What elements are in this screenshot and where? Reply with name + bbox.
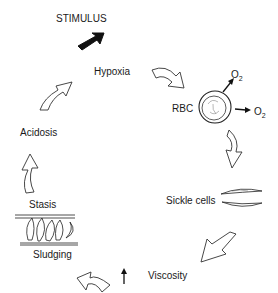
node-rbc: RBC — [172, 103, 193, 115]
arrow-rbc-to-sickle-icon — [226, 130, 242, 168]
node-hypoxia: Hypoxia — [94, 66, 130, 78]
sickle-cells-icon — [221, 189, 262, 206]
arrow-hypoxia-to-rbc-icon — [152, 68, 184, 88]
o2-arrow-right-icon — [235, 109, 246, 110]
o2-label-right: O2 — [254, 106, 266, 119]
arrow-stasis-to-acidosis-icon — [22, 154, 38, 193]
node-acidosis: Acidosis — [20, 127, 57, 139]
arrow-acidosis-to-hypoxia-icon — [40, 82, 72, 110]
stimulus-label: STIMULUS — [56, 13, 107, 25]
o2-label-top: O2 — [231, 69, 243, 82]
sludging-vessel-icon — [15, 215, 78, 245]
o2-arrow-up-icon — [223, 82, 231, 92]
stimulus-arrow-icon — [78, 33, 104, 50]
arrow-viscosity-to-sludging-icon — [77, 272, 110, 292]
node-sickle-cells: Sickle cells — [166, 195, 215, 207]
rbc-cell-icon — [199, 91, 231, 123]
node-stasis: Stasis — [29, 199, 56, 211]
node-viscosity: Viscosity — [148, 270, 187, 282]
arrow-sickle-to-viscosity-icon — [201, 232, 236, 262]
node-sludging: Sludging — [33, 249, 72, 261]
